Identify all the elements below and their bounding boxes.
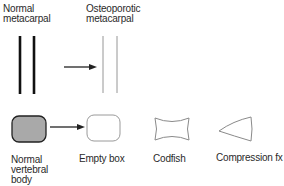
diagram-figures — [0, 0, 284, 186]
normal-vertebral-body-icon — [12, 116, 46, 142]
osteoporotic-metacarpal-icon — [103, 36, 117, 93]
arrow-right-icon — [50, 124, 85, 130]
normal-metacarpal-icon — [20, 36, 34, 94]
empty-box-icon — [87, 115, 120, 141]
compression-fracture-icon — [219, 117, 252, 141]
arrow-right-icon — [64, 64, 97, 70]
codfish-vertebra-icon — [155, 118, 189, 140]
